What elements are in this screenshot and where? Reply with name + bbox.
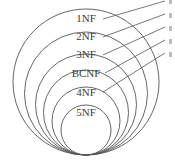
clipped-text-1 [169,0,172,4]
clipped-annotations [169,0,172,57]
leader-line-4 [105,40,165,73]
label-5nf: 5NF [76,106,96,118]
label-1nf: 1NF [76,12,96,24]
form-labels: 1NF 2NF 3NF BCNF 4NF 5NF [72,12,101,118]
leader-line-1 [103,1,165,19]
normal-forms-diagram: 1NF 2NF 3NF BCNF 4NF 5NF [0,0,175,164]
leader-line-2 [103,14,165,37]
label-3nf: 3NF [76,48,96,60]
clipped-text-3 [169,26,172,31]
leader-lines [103,1,165,92]
label-4nf: 4NF [76,86,96,98]
leader-line-5 [103,53,165,92]
label-bcnf: BCNF [72,67,101,79]
leader-line-3 [103,27,165,55]
clipped-text-2 [169,13,172,18]
label-2nf: 2NF [76,30,96,42]
clipped-text-4 [169,39,172,44]
clipped-text-5 [169,52,172,57]
